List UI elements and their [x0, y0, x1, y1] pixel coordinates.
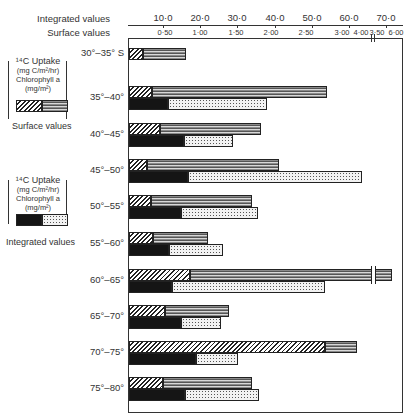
surface-chlorophyll-bar	[129, 48, 143, 60]
surface-axis-line	[128, 38, 403, 39]
legend-hatched-swatch	[16, 100, 42, 112]
surface-tick-label: 2·50	[298, 28, 313, 37]
surface-chlorophyll-bar	[129, 86, 152, 98]
surface-uptake-bar	[151, 195, 252, 207]
integrated-uptake-bar	[169, 244, 223, 256]
legend-surface-title: Surface values	[12, 121, 72, 131]
surface-uptake-bar	[152, 86, 327, 98]
legend-bracket	[8, 61, 9, 119]
surface-tick-label: 0·50	[157, 28, 172, 37]
latitude-label: 65°–70°	[64, 310, 124, 321]
surface-tick-label: 1·00	[192, 28, 207, 37]
tick-mark	[386, 25, 387, 28]
integrated-chlorophyll-bar	[129, 135, 184, 147]
legend-uptake-label: ¹⁴C Uptake	[8, 176, 68, 185]
integrated-chlorophyll-bar	[129, 353, 196, 365]
surface-tick-label: 2·00	[263, 28, 278, 37]
integrated-chlorophyll-bar	[129, 389, 185, 401]
integrated-chlorophyll-bar	[129, 98, 168, 110]
chart-bottom-border	[128, 412, 403, 413]
legend-integrated: ¹⁴C Uptake (mg C/m²/hr) Chlorophyll a (m…	[8, 176, 68, 212]
surface-chlorophyll-bar	[129, 159, 147, 171]
legend-uptake-units: (mg C/m²/hr)	[8, 66, 68, 75]
surface-uptake-bar	[325, 341, 357, 353]
legend-uptake-units: (mg C/m²/hr)	[8, 185, 68, 194]
integrated-tick-label: 10·0	[153, 12, 172, 23]
legend-integrated-title: Integrated values	[6, 237, 75, 247]
surface-uptake-bar	[190, 269, 392, 281]
integrated-tick-label: 60·0	[339, 12, 358, 23]
legend-uptake-label: ¹⁴C Uptake	[8, 57, 68, 66]
legend-dotted-swatch	[42, 214, 68, 226]
surface-chlorophyll-bar	[129, 377, 163, 389]
surface-tick-label: 3·50	[369, 28, 384, 37]
integrated-chlorophyll-bar	[129, 281, 172, 293]
integrated-uptake-bar	[196, 353, 238, 365]
bar-break-mark	[375, 266, 376, 284]
latitude-label: 30°–35° S	[64, 47, 124, 58]
integrated-tick-label: 40·0	[265, 12, 284, 23]
surface-axis-title: Surface values	[0, 27, 110, 38]
latitude-label: 50°–55°	[64, 200, 124, 211]
latitude-label: 45°–50°	[64, 164, 124, 175]
legend-bracket	[8, 180, 9, 224]
legend-black-swatch	[16, 214, 42, 226]
integrated-tick-label: 70·0	[376, 12, 395, 23]
legend-chl-units: (mg/m²)	[8, 203, 68, 212]
surface-uptake-bar	[143, 48, 186, 60]
surface-chlorophyll-bar	[129, 305, 165, 317]
integrated-chlorophyll-bar	[129, 244, 169, 256]
legend-chl-units: (mg/m²)	[8, 84, 68, 93]
chart-right-border	[402, 38, 403, 413]
integrated-uptake-bar	[184, 135, 233, 147]
surface-chlorophyll-bar	[129, 123, 160, 135]
latitude-label: 60°–65°	[64, 274, 124, 285]
surface-tick-label: 6·00	[388, 28, 403, 37]
surface-uptake-bar	[160, 123, 261, 135]
surface-chlorophyll-bar	[129, 269, 190, 281]
latitude-label: 75°–80°	[64, 382, 124, 393]
surface-tick-label: 1·50	[228, 28, 243, 37]
integrated-chlorophyll-bar	[129, 317, 181, 329]
legend-lined-swatch	[42, 100, 68, 112]
latitude-label: 70°–75°	[64, 346, 124, 357]
latitude-label: 40°–45°	[64, 128, 124, 139]
integrated-tick-label: 20·0	[190, 12, 209, 23]
integrated-tick-label: 30·0	[227, 12, 246, 23]
surface-uptake-bar	[147, 159, 279, 171]
surface-chlorophyll-bar	[129, 232, 153, 244]
integrated-chlorophyll-bar	[129, 207, 181, 219]
legend-chl-label: Chlorophyll a	[8, 194, 68, 203]
integrated-uptake-bar	[168, 98, 267, 110]
integrated-uptake-bar	[188, 171, 362, 183]
surface-chlorophyll-bar	[129, 195, 151, 207]
surface-tick-label: 4·00	[353, 28, 368, 37]
surface-uptake-bar	[163, 377, 252, 389]
legend-chl-label: Chlorophyll a	[8, 75, 68, 84]
integrated-uptake-bar	[185, 389, 259, 401]
integrated-uptake-bar	[181, 317, 221, 329]
surface-chlorophyll-bar	[129, 341, 325, 353]
surface-uptake-bar	[165, 305, 229, 317]
surface-uptake-bar	[153, 232, 208, 244]
integrated-uptake-bar	[181, 207, 258, 219]
integrated-axis-title: Integrated values	[0, 13, 110, 24]
integrated-axis-line	[128, 25, 403, 26]
bar-break-mark	[371, 266, 372, 284]
latitude-label: 35°–40°	[64, 91, 124, 102]
integrated-chlorophyll-bar	[129, 171, 188, 183]
legend-surface: ¹⁴C Uptake (mg C/m²/hr) Chlorophyll a (m…	[8, 57, 68, 93]
integrated-uptake-bar	[172, 281, 325, 293]
surface-tick-label: 3·00	[334, 28, 349, 37]
integrated-tick-label: 50·0	[302, 12, 321, 23]
